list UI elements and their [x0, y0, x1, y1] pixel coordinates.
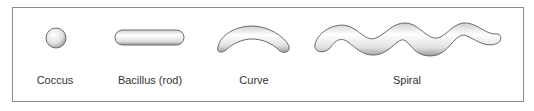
bacillus-shape	[115, 30, 184, 45]
curve-label: Curve	[239, 74, 268, 86]
bacillus-label: Bacillus (rod)	[118, 74, 182, 86]
spiral-label: Spiral	[393, 74, 421, 86]
spiral-shape	[315, 23, 501, 56]
coccus-shape	[46, 28, 66, 48]
bacteria-shapes	[0, 0, 534, 111]
coccus-label: Coccus	[37, 74, 74, 86]
curve-shape	[218, 26, 290, 52]
